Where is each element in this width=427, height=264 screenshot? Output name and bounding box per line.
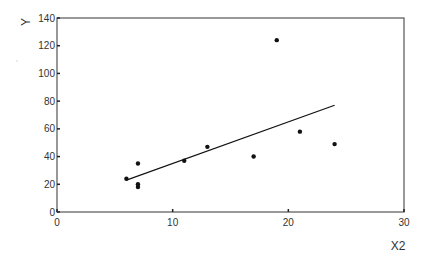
data-series bbox=[124, 38, 337, 189]
scatter-chart: 020406080100120140 0102030 Y X2 bbox=[0, 0, 427, 264]
y-tick-label: 100 bbox=[38, 68, 55, 79]
x-tick-label: 20 bbox=[283, 217, 295, 228]
x-tick-label: 10 bbox=[167, 217, 179, 228]
fit-line bbox=[126, 105, 334, 180]
data-point bbox=[136, 185, 140, 189]
data-point bbox=[136, 161, 140, 165]
data-point bbox=[332, 142, 336, 146]
stray-dot bbox=[16, 60, 17, 61]
y-axis-label: Y bbox=[19, 18, 33, 26]
data-point bbox=[251, 154, 255, 158]
y-tick-label: 140 bbox=[38, 13, 55, 24]
data-point bbox=[275, 38, 279, 42]
y-tick-label: 0 bbox=[49, 207, 55, 218]
y-tick-label: 80 bbox=[44, 96, 56, 107]
data-point bbox=[124, 177, 128, 181]
y-tick-label: 20 bbox=[44, 179, 56, 190]
y-tick-label: 40 bbox=[44, 151, 56, 162]
data-point bbox=[205, 145, 209, 149]
y-tick-label: 120 bbox=[38, 40, 55, 51]
data-point bbox=[298, 129, 302, 133]
plot-frame bbox=[57, 18, 404, 212]
y-tick-label: 60 bbox=[44, 123, 56, 134]
x-axis-label: X2 bbox=[391, 239, 406, 253]
x-tick-label: 0 bbox=[54, 217, 60, 228]
x-tick-label: 30 bbox=[398, 217, 410, 228]
